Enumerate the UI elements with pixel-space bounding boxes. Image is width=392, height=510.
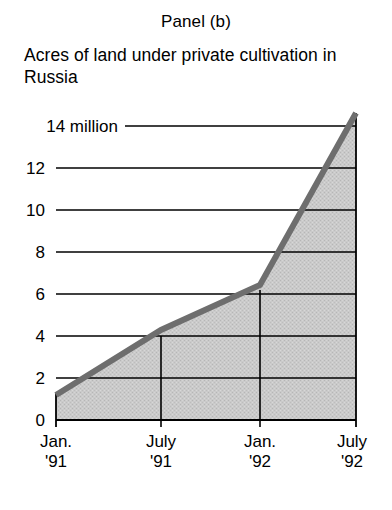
xtick-label-jan-92-year: '92 [220, 452, 300, 472]
xtick-label-july-91-month: July [121, 432, 201, 452]
xtick-label-jan-91-month: Jan. [16, 432, 96, 452]
xtick-label-july-91-year: '91 [121, 452, 201, 472]
ytick-label-12: 12 [0, 160, 45, 177]
ytick-label-2: 2 [0, 370, 45, 387]
xtick-label-july-91: July '91 [121, 432, 201, 472]
area-fill [56, 113, 356, 420]
ytick-label-0: 0 [0, 412, 45, 429]
ytick-label-6: 6 [0, 286, 45, 303]
plot-area: 14 million 12 10 8 6 4 2 0 Jan. '91 July… [0, 0, 392, 510]
xtick-label-july-92-year: '92 [312, 452, 392, 472]
xtick-label-jan-91: Jan. '91 [16, 432, 96, 472]
ytick-label-10: 10 [0, 202, 45, 219]
xtick-label-jan-92-month: Jan. [220, 432, 300, 452]
ytick-label-14: 14 million [0, 118, 118, 135]
xtick-label-jan-92: Jan. '92 [220, 432, 300, 472]
ytick-label-4: 4 [0, 328, 45, 345]
chart-figure: Panel (b) Acres of land under private cu… [0, 0, 392, 510]
xtick-label-july-92: July '92 [312, 432, 392, 472]
xtick-label-jan-91-year: '91 [16, 452, 96, 472]
ytick-label-8: 8 [0, 244, 45, 261]
xtick-label-july-92-month: July [312, 432, 392, 452]
